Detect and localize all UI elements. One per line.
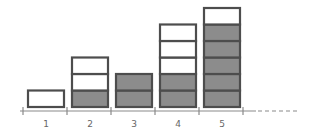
empty-block [160,25,196,42]
axis-label-4: 4 [168,119,188,129]
axis-label-5: 5 [212,119,232,129]
filled-block [72,91,108,108]
filled-block [204,74,240,91]
empty-block [160,58,196,75]
axis-label-3: 3 [124,119,144,129]
block-column-1 [28,91,64,108]
filled-block [116,74,152,91]
x-axis [20,107,299,115]
filled-block [160,74,196,91]
filled-block [204,58,240,75]
axis-label-1: 1 [36,119,56,129]
empty-block [28,91,64,108]
empty-block [72,58,108,75]
filled-block [204,25,240,42]
block-column-5 [204,8,240,107]
axis-label-2: 2 [80,119,100,129]
block-column-2 [72,58,108,108]
empty-block [160,41,196,58]
empty-block [204,8,240,25]
block-column-3 [116,74,152,107]
empty-block [72,74,108,91]
block-columns [28,8,240,107]
filled-block [204,41,240,58]
filled-block [204,91,240,108]
filled-block [116,91,152,108]
filled-block [160,91,196,108]
block-column-4 [160,25,196,108]
